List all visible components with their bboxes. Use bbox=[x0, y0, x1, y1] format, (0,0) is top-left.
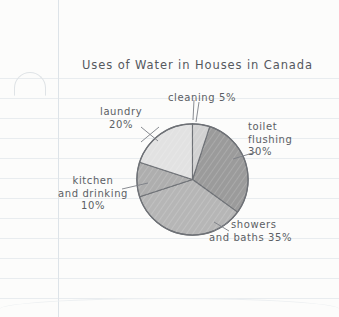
slice-label-toilet-line2: flushing bbox=[248, 134, 292, 147]
rule-line bbox=[0, 78, 339, 79]
slice-label-showers-and-baths: showers and baths 35% bbox=[231, 219, 292, 244]
slice-label-laundry-line2: 20% bbox=[100, 119, 142, 132]
slice-label-cleaning: cleaning 5% bbox=[168, 92, 236, 105]
slice-label-kitchen-line2: and drinking bbox=[58, 188, 128, 201]
slice-label-toilet-line1: toilet bbox=[248, 121, 292, 134]
chart-title: Uses of Water in Houses in Canada bbox=[82, 58, 313, 72]
slice-label-kitchen-and-drinking: kitchen and drinking 10% bbox=[58, 175, 128, 213]
slice-label-showers-line1: showers bbox=[231, 219, 292, 232]
slice-label-showers-line2: and baths 35% bbox=[209, 232, 292, 245]
slice-label-toilet-line3: 30% bbox=[248, 146, 292, 159]
slice-label-kitchen-line3: 10% bbox=[58, 200, 128, 213]
rule-line bbox=[0, 278, 339, 279]
slice-label-cleaning-line1: cleaning 5% bbox=[168, 92, 236, 105]
hole-punch-arc bbox=[14, 72, 46, 96]
slice-label-laundry-line1: laundry bbox=[100, 106, 142, 119]
rule-line bbox=[0, 258, 339, 259]
slice-label-kitchen-line1: kitchen bbox=[58, 175, 128, 188]
slice-label-toilet-flushing: toilet flushing 30% bbox=[248, 121, 292, 159]
margin-line bbox=[58, 0, 59, 317]
rule-line bbox=[0, 118, 339, 119]
slice-label-laundry: laundry 20% bbox=[100, 106, 142, 131]
notebook-page: Uses of Water in Houses in Canada cleani… bbox=[0, 0, 339, 317]
